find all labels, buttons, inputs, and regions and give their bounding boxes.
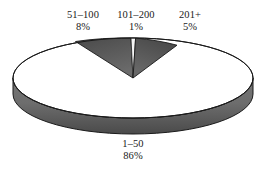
slice-label-101-200: 101–200 1%	[105, 9, 167, 34]
slice-category-101-200: 101–200	[105, 9, 167, 21]
slice-label-1-50: 1–50 86%	[103, 138, 163, 163]
slice-percent-51-100: 8%	[53, 21, 113, 33]
slice-category-1-50: 1–50	[103, 138, 163, 150]
slice-category-51-100: 51–100	[53, 9, 113, 21]
slice-percent-101-200: 1%	[105, 21, 167, 33]
slice-label-201-plus: 201+ 5%	[162, 9, 218, 34]
slice-label-51-100: 51–100 8%	[53, 9, 113, 34]
slice-percent-201-plus: 5%	[162, 21, 218, 33]
slice-percent-1-50: 86%	[103, 150, 163, 162]
slice-category-201-plus: 201+	[162, 9, 218, 21]
pie-chart-figure: 51–100 8% 101–200 1% 201+ 5% 1–50 86%	[0, 0, 266, 174]
